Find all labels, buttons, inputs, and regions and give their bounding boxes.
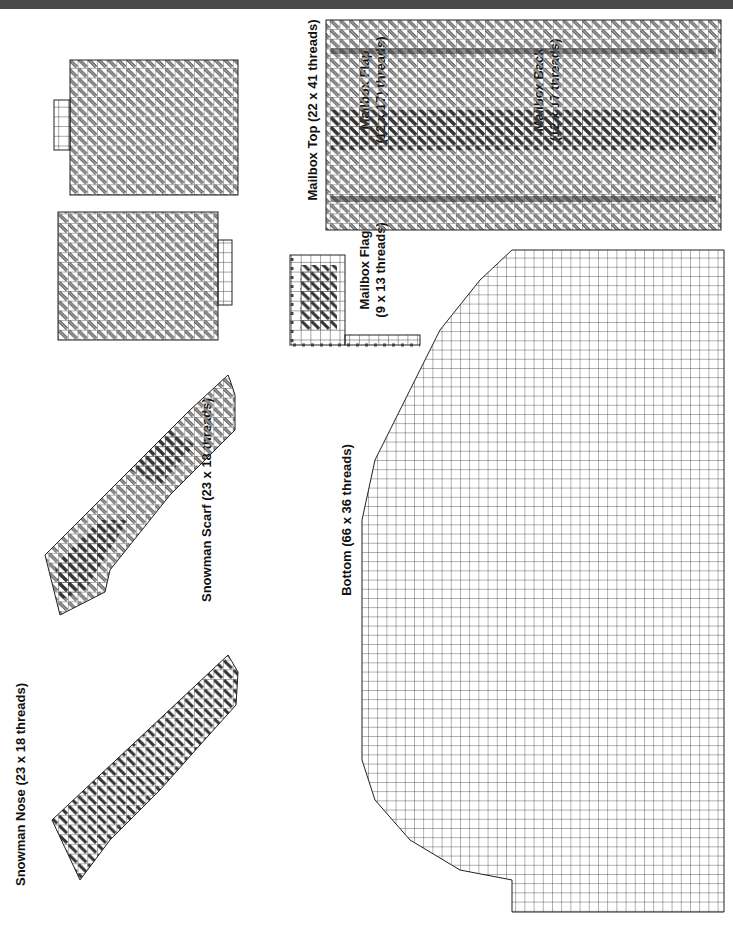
mailbox-back-chart — [54, 60, 238, 195]
snowman-scarf-chart — [45, 375, 235, 615]
mailbox-top-chart — [326, 20, 721, 230]
bottom-chart — [362, 250, 724, 912]
mailbox-flap-chart — [58, 212, 232, 340]
patterns-canvas — [0, 0, 733, 928]
snowman-nose-chart — [52, 655, 238, 880]
mailbox-flag-chart — [290, 255, 420, 345]
